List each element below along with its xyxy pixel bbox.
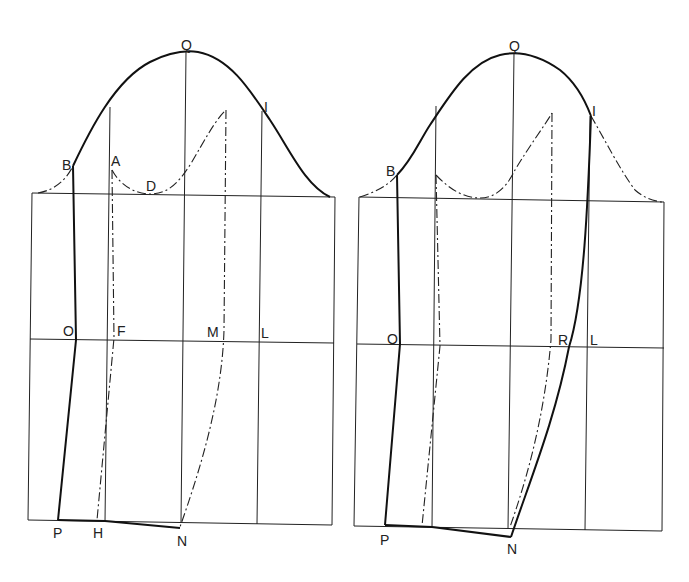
- label-p: P: [380, 532, 389, 548]
- right-sleeve-panel: Q I B O R L P N: [354, 38, 664, 557]
- left-undersleeve-curve: [112, 110, 226, 194]
- right-hem: [385, 525, 511, 537]
- right-crown-dashed-right: [591, 116, 662, 202]
- label-m: M: [207, 324, 219, 340]
- left-vertical-a: [105, 107, 110, 522]
- sleeve-draft-diagram: Q I B A D O F M L P H N: [0, 0, 689, 582]
- label-r: R: [558, 332, 568, 348]
- label-n: N: [507, 541, 517, 557]
- right-vertical-a: [432, 106, 436, 527]
- label-d: D: [146, 178, 156, 194]
- label-l: L: [261, 325, 269, 341]
- right-undersleeve-back-seam: [510, 113, 552, 527]
- right-back-seam: [511, 116, 591, 537]
- label-q: Q: [509, 38, 520, 54]
- label-f: F: [117, 323, 126, 339]
- left-vertical-l: [257, 111, 262, 524]
- label-a: A: [111, 153, 121, 169]
- right-undersleeve-front-seam: [422, 175, 440, 526]
- right-vertical-q: [508, 53, 514, 529]
- label-i: I: [264, 99, 268, 115]
- right-undersleeve-curve: [436, 113, 552, 198]
- label-q: Q: [181, 37, 192, 53]
- label-b: B: [62, 157, 71, 173]
- label-l: L: [590, 332, 598, 348]
- label-n: N: [177, 533, 187, 549]
- label-i: I: [592, 103, 596, 119]
- label-p: P: [53, 525, 62, 541]
- right-front-seam: [385, 175, 400, 525]
- label-o: O: [387, 331, 398, 347]
- left-sleeve-panel: Q I B A D O F M L P H N: [28, 37, 335, 549]
- label-b: B: [386, 163, 395, 179]
- left-vertical-q: [181, 52, 186, 523]
- label-h: H: [93, 525, 103, 541]
- label-o: O: [63, 323, 74, 339]
- left-front-seam: [58, 166, 76, 520]
- right-crown-curve: [397, 53, 591, 175]
- left-undersleeve-back-seam: [180, 110, 226, 527]
